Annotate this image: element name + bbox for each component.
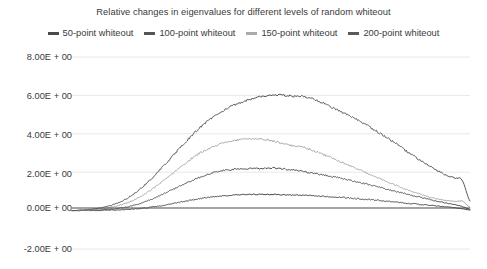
chart-container: Relative changes in eigenvalues for diff…	[0, 0, 487, 269]
gridlines	[72, 57, 470, 249]
series-line-2	[72, 138, 470, 210]
data-curves	[72, 94, 470, 211]
plot-svg	[0, 0, 487, 269]
series-line-3	[72, 94, 470, 210]
plot-area: 8.00E + 00 6.00E + 00 4.00E + 00 2.00E +…	[0, 0, 487, 269]
